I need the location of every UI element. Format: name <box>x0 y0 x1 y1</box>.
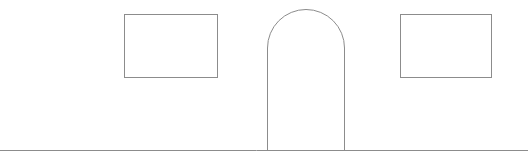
left-window <box>125 15 218 78</box>
arched-door <box>268 9 345 150</box>
right-window <box>401 15 492 78</box>
facade-drawing <box>0 0 528 154</box>
facade-diagram <box>0 0 528 154</box>
